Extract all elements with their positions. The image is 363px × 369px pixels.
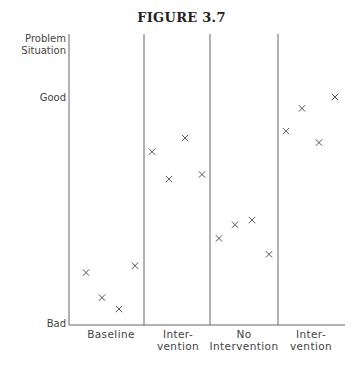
- data-point-x-marker: [199, 171, 205, 177]
- phase-label-intervention-2-line2: vention: [290, 340, 332, 352]
- data-point-x-marker: [249, 217, 255, 223]
- phase-label-intervention-1-line1: Inter-: [163, 328, 193, 340]
- y-tick-bad: Bad: [47, 318, 66, 329]
- y-axis-label-line2: Situation: [21, 45, 66, 56]
- data-point-x-marker: [116, 306, 122, 312]
- data-point-x-marker: [266, 251, 272, 257]
- phase-label-intervention-1-line2: vention: [157, 340, 199, 352]
- data-point-x-marker: [299, 105, 305, 111]
- data-point-x-marker: [182, 135, 188, 141]
- data-point-x-marker: [99, 294, 105, 300]
- data-point-x-marker: [283, 128, 289, 134]
- data-point-x-marker: [149, 149, 155, 155]
- phase-label-no-intervention-line2: Intervention: [210, 340, 279, 352]
- scatter-plot: Problem Situation Good Bad Baseline Inte…: [0, 0, 363, 369]
- y-tick-good: Good: [40, 92, 66, 103]
- data-point-x-marker: [232, 221, 238, 227]
- y-axis-label-line1: Problem: [25, 33, 66, 44]
- data-point-x-marker: [166, 176, 172, 182]
- data-point-x-marker: [316, 139, 322, 145]
- data-point-x-marker: [332, 94, 338, 100]
- data-point-x-marker: [216, 235, 222, 241]
- data-point-x-marker: [132, 263, 138, 269]
- phase-label-intervention-2-line1: Inter-: [296, 328, 326, 340]
- phase-label-baseline: Baseline: [87, 328, 135, 340]
- phase-label-no-intervention-line1: No: [236, 328, 251, 340]
- data-point-x-marker: [83, 269, 89, 275]
